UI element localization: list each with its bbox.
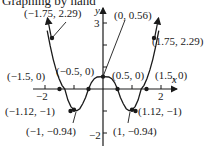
label-point-0.5: (0.5, 0) <box>112 69 144 82</box>
y-tick-label-3: 3 <box>94 17 100 29</box>
label-point-neg1.5: (−1.5, 0) <box>7 70 46 83</box>
label-point-0: (0, 0.56) <box>114 9 152 22</box>
chart-canvas: −2 2 3 −2 x y (−1.75, 2.29) (0, 0.56) (1… <box>0 0 212 148</box>
y-axis-label: y <box>94 4 100 16</box>
label-point-1: (1, −0.94) <box>113 125 157 138</box>
label-point-1.5: (1.5, 0) <box>155 69 187 82</box>
label-point-neg1.12: (−1.12, −1) <box>5 105 55 118</box>
label-point-1.12: (1.12, −1) <box>138 105 182 118</box>
label-point-1.75: (1.75, 2.29) <box>152 35 204 48</box>
label-point-neg1: (−1, −0.94) <box>26 125 76 138</box>
x-tick-label-neg2: −2 <box>36 90 48 102</box>
y-tick-label-neg2: −2 <box>89 129 101 141</box>
label-point-neg1.75: (−1.75, 2.29) <box>24 7 82 20</box>
x-tick-label-2: 2 <box>158 90 164 102</box>
label-point-neg0.5: (−0.5, 0) <box>56 65 95 78</box>
